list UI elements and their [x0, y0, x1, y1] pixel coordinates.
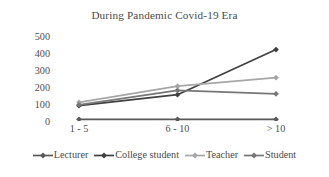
data-point-marker	[192, 152, 198, 158]
x-axis: 1 - 56 - 10> 10	[56, 123, 299, 138]
data-point-marker	[273, 116, 279, 121]
data-point-marker	[273, 75, 279, 81]
data-point-marker	[175, 88, 181, 94]
y-tick-label: 0	[0, 116, 50, 127]
x-tick-label: > 10	[243, 123, 309, 135]
y-tick-label: 400	[0, 48, 50, 59]
y-tick-label: 100	[0, 99, 50, 110]
x-tick-label: 1 - 5	[46, 123, 112, 135]
legend-item-lecturer[interactable]: Lecturer	[33, 149, 89, 161]
series-college-student	[76, 47, 279, 109]
series-lecturer	[76, 116, 279, 121]
line-chart: During Pandemic Covid-19 Era 01002003004…	[0, 0, 329, 177]
legend-label: College student	[115, 149, 179, 161]
y-tick-label: 300	[0, 65, 50, 76]
plot-svg	[56, 36, 299, 121]
y-tick-label: 500	[0, 31, 50, 42]
legend-item-college-student[interactable]: College student	[94, 149, 179, 161]
legend-label: Student	[265, 149, 296, 161]
data-point-marker	[76, 116, 82, 121]
plot-area	[56, 36, 299, 121]
chart-title: During Pandemic Covid-19 Era	[0, 9, 329, 21]
legend-label: Teacher	[206, 149, 238, 161]
legend-marker-icon	[185, 151, 205, 160]
data-point-marker	[251, 152, 257, 158]
data-point-marker	[101, 152, 107, 158]
legend-item-student[interactable]: Student	[244, 149, 296, 161]
data-point-marker	[273, 91, 279, 97]
legend-label: Lecturer	[54, 149, 89, 161]
legend-item-teacher[interactable]: Teacher	[185, 149, 238, 161]
x-tick-label: 6 - 10	[145, 123, 211, 135]
y-axis: 0100200300400500	[0, 30, 50, 128]
legend-marker-icon	[94, 151, 114, 160]
data-point-marker	[40, 152, 46, 158]
data-point-marker	[273, 47, 279, 53]
y-tick-label: 200	[0, 82, 50, 93]
legend-marker-icon	[244, 151, 264, 160]
data-point-marker	[175, 116, 181, 121]
legend-marker-icon	[33, 151, 53, 160]
chart-legend: LecturerCollege studentTeacherStudent	[0, 146, 329, 164]
